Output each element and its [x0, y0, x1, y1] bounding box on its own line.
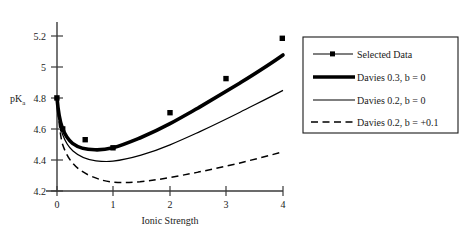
chart-legend: Selected Data Davies 0.3, b = 0 Davies 0…: [303, 37, 458, 133]
y-axis-title: pKa: [10, 93, 26, 107]
series-davies-03-b0: [57, 55, 283, 150]
data-marker: [223, 76, 228, 81]
data-marker: [60, 126, 65, 131]
legend-label-0: Selected Data: [357, 49, 413, 60]
chart-canvas: 4.2 4.4 4.6 4.8 5 5.2 0 1 2 3 4 pKa Ioni…: [0, 0, 464, 235]
y-tick-label-0: 4.2: [34, 186, 47, 197]
data-marker: [280, 36, 285, 41]
x-tick-label-4: 4: [281, 199, 286, 210]
svg-text:pKa: pKa: [10, 93, 26, 107]
data-marker: [83, 137, 88, 142]
legend-label-2: Davies 0.2, b = 0: [357, 95, 425, 106]
y-tick-label-5: 5.2: [34, 31, 47, 42]
y-tick-label-3: 4.8: [34, 93, 47, 104]
x-tick-label-3: 3: [224, 199, 229, 210]
y-tick-label-4: 5: [41, 62, 46, 73]
series-selected-data: [54, 36, 285, 151]
data-marker: [167, 110, 172, 115]
x-tick-label-1: 1: [111, 199, 116, 210]
legend-label-1: Davies 0.3, b = 0: [357, 72, 425, 83]
x-axis-title: Ionic Strength: [142, 215, 199, 226]
x-tick-label-0: 0: [55, 199, 60, 210]
x-tick-label-2: 2: [168, 199, 173, 210]
y-axis-title-base: pK: [10, 93, 23, 104]
y-tick-label-2: 4.6: [34, 124, 47, 135]
y-tick-labels: 4.2 4.4 4.6 4.8 5 5.2: [34, 31, 47, 197]
x-tick-labels: 0 1 2 3 4: [55, 199, 286, 210]
legend-swatch-marker: [330, 51, 335, 56]
chart-figure: 4.2 4.4 4.6 4.8 5 5.2 0 1 2 3 4 pKa Ioni…: [0, 0, 464, 235]
legend-label-3: Davies 0.2, b = +0.1: [357, 117, 439, 128]
data-marker: [54, 95, 59, 100]
y-tick-label-1: 4.4: [34, 155, 47, 166]
data-marker: [110, 145, 115, 150]
y-axis-title-subscript: a: [22, 99, 26, 107]
